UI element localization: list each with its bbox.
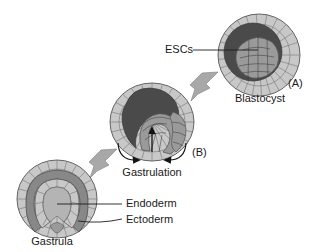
gastrula-label: Gastrula <box>31 235 73 247</box>
figure-canvas: ESCs (A) Blastocyst <box>0 0 318 252</box>
escs-label: ESCs <box>165 43 194 55</box>
blastocyst-label: Blastocyst <box>235 92 285 104</box>
ectoderm-label: Ectoderm <box>126 213 173 225</box>
gastrulation-label: Gastrulation <box>122 166 181 178</box>
panel-a-label: (A) <box>288 77 303 89</box>
embryo-development-figure: ESCs (A) Blastocyst <box>0 0 318 252</box>
endoderm-label: Endoderm <box>126 197 177 209</box>
panel-b-label: (B) <box>192 146 207 158</box>
